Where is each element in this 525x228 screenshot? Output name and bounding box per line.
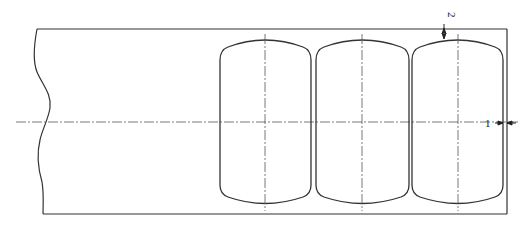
capsule-2 — [316, 34, 409, 211]
capsule-1 — [220, 34, 311, 211]
dimension-2: 2 — [442, 12, 458, 39]
dim-2-label: 2 — [446, 12, 458, 18]
strip-outline — [34, 29, 507, 214]
dimension-1: 1 — [485, 117, 516, 129]
technical-drawing: 2 1 — [0, 0, 525, 228]
dim-2-arrow-icon — [442, 24, 446, 39]
dim-1-label: 1 — [485, 117, 491, 129]
break-line — [34, 29, 50, 214]
